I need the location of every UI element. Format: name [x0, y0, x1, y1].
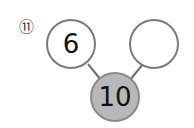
part-circle-left: 6 [46, 19, 96, 69]
number-bond-diagram: ⑪ 6 10 [0, 0, 194, 128]
part-circle-right-blank[interactable] [129, 19, 179, 69]
right-connector [130, 64, 143, 80]
part-value-left: 6 [63, 29, 80, 59]
whole-value: 10 [98, 82, 131, 112]
whole-circle: 10 [90, 72, 140, 122]
